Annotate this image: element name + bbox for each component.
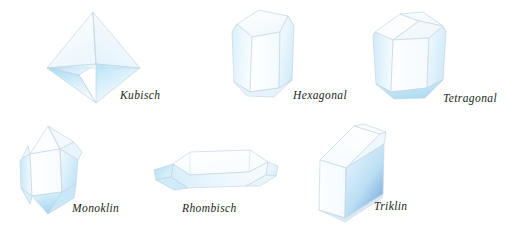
crystal-label-triklin: Triklin bbox=[374, 201, 407, 213]
crystal-label-hexagonal: Hexagonal bbox=[293, 90, 347, 102]
crystal-label-kubisch: Kubisch bbox=[120, 90, 161, 102]
crystal-tetragonal-prism-icon bbox=[367, 2, 459, 106]
crystal-orthorhombic-icon bbox=[146, 142, 282, 202]
crystal-label-monoklin: Monoklin bbox=[72, 203, 119, 215]
crystal-label-tetragonal: Tetragonal bbox=[443, 93, 497, 105]
crystal-label-rhombisch: Rhombisch bbox=[182, 203, 237, 215]
crystal-systems-figure: Kubisch bbox=[0, 0, 523, 236]
